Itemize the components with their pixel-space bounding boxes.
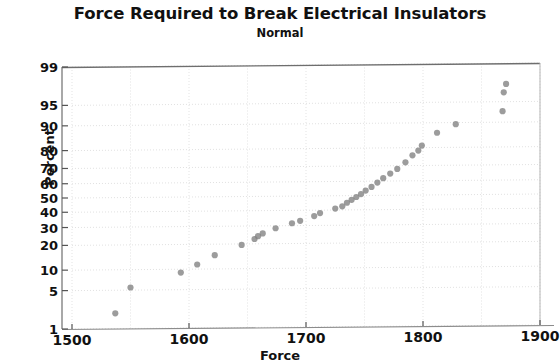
axis-lines [62,63,554,330]
gridlines [72,63,540,329]
axis-ticks [62,67,540,329]
data-points [112,81,509,317]
